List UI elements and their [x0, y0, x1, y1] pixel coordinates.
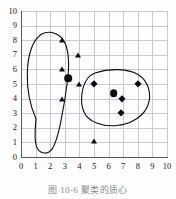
y-tick-label: 9 — [1, 21, 17, 30]
x-tick-label: 0 — [14, 162, 28, 171]
y-tick-label: 7 — [1, 50, 17, 59]
gridline-vertical — [123, 11, 124, 157]
x-tick-label: 5 — [87, 162, 101, 171]
centroid-marker — [110, 90, 118, 98]
x-tick-label: 8 — [131, 162, 145, 171]
y-tick-label: 4 — [1, 94, 17, 103]
figure-caption: 图 10-6 聚类的质心 — [0, 183, 176, 199]
x-tick-label: 4 — [72, 162, 86, 171]
x-tick-label: 7 — [116, 162, 130, 171]
gridline-horizontal — [21, 40, 167, 41]
y-tick-label: 8 — [1, 36, 17, 45]
gridline-vertical — [152, 11, 153, 157]
y-tick-label: 6 — [1, 65, 17, 74]
y-tick-label: 5 — [1, 80, 17, 89]
y-tick-label: 0 — [1, 153, 17, 162]
gridline-horizontal — [21, 55, 167, 56]
gridline-horizontal — [21, 69, 167, 70]
x-tick-label: 9 — [145, 162, 159, 171]
data-point-triangle — [59, 38, 65, 43]
y-tick-label: 3 — [1, 109, 17, 118]
x-tick-label: 3 — [58, 162, 72, 171]
gridline-vertical — [109, 11, 110, 157]
x-tick-label: 6 — [102, 162, 116, 171]
y-tick-label: 1 — [1, 138, 17, 147]
data-point-triangle — [75, 52, 81, 57]
x-axis-line — [21, 157, 168, 158]
x-tick-label: 10 — [160, 162, 174, 171]
gridline-vertical — [167, 11, 168, 157]
centroid-marker — [65, 74, 73, 82]
data-point-triangle — [76, 82, 82, 87]
x-tick-label: 1 — [29, 162, 43, 171]
x-tick-label: 2 — [43, 162, 57, 171]
figure-container: 012345678910 012345678910 图 10-6 聚类的质心 — [0, 0, 176, 199]
y-axis-line — [21, 11, 22, 158]
y-tick-label: 10 — [1, 7, 17, 16]
data-point-triangle — [59, 67, 65, 72]
gridline-horizontal — [21, 26, 167, 27]
y-tick-label: 2 — [1, 123, 17, 132]
data-point-triangle — [91, 138, 97, 143]
data-point-triangle — [59, 96, 65, 101]
gridline-horizontal — [21, 11, 167, 12]
